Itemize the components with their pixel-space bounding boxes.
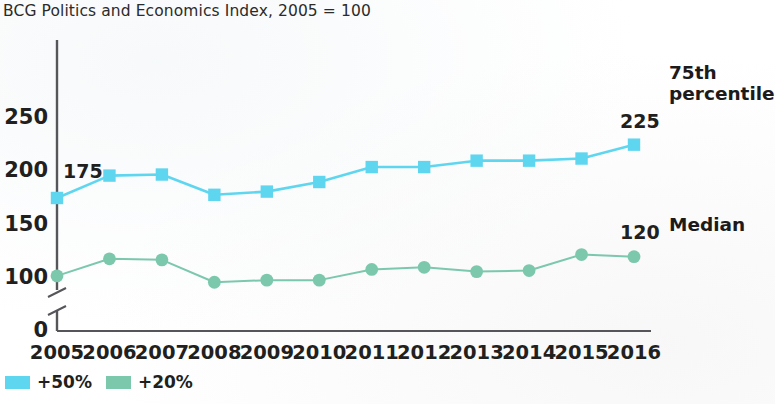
data-point-marker: [51, 269, 64, 282]
data-point-marker: [470, 265, 483, 278]
data-point-marker: [365, 263, 378, 276]
x-axis-tick-2007: 2007: [133, 343, 191, 363]
series2-annotation: Median: [669, 215, 745, 236]
x-axis-tick-2008: 2008: [185, 343, 243, 363]
data-point-marker: [575, 248, 588, 261]
data-point-marker: [208, 276, 221, 289]
y-axis-tick-100: 100: [0, 267, 48, 288]
data-point-marker: [628, 138, 640, 150]
x-axis-tick-2016: 2016: [605, 343, 663, 363]
x-axis-tick-2009: 2009: [238, 343, 296, 363]
data-point-marker: [208, 189, 220, 201]
y-axis-tick-200: 200: [0, 160, 48, 181]
x-axis-tick-2013: 2013: [448, 343, 506, 363]
y-axis-tick-250: 250: [0, 107, 48, 128]
data-point-marker: [260, 274, 273, 287]
x-axis-tick-2014: 2014: [500, 343, 558, 363]
legend-swatch-1: [5, 376, 30, 389]
data-point-marker: [313, 176, 325, 188]
x-axis-tick-2012: 2012: [395, 343, 453, 363]
data-point-marker: [575, 152, 587, 164]
x-axis-tick-2015: 2015: [553, 343, 611, 363]
data-label-series1-start: 175: [63, 162, 103, 181]
data-point-marker: [313, 274, 326, 287]
legend-entry-2[interactable]: +20%: [106, 374, 193, 391]
series1-annotation-line2: percentile: [669, 83, 775, 104]
data-point-marker: [418, 261, 431, 274]
legend-label-1: +50%: [37, 374, 92, 391]
chart-legend: +50%+20%: [5, 374, 193, 391]
data-point-marker: [261, 185, 273, 197]
x-axis-tick-2010: 2010: [290, 343, 348, 363]
x-axis-tick-2005: 2005: [28, 343, 86, 363]
series-line-2: [57, 255, 634, 283]
legend-entry-1[interactable]: +50%: [5, 374, 92, 391]
data-point-marker: [523, 154, 535, 166]
data-point-marker: [51, 192, 63, 204]
data-point-marker: [366, 161, 378, 173]
data-point-marker: [418, 161, 430, 173]
x-axis-tick-2011: 2011: [343, 343, 401, 363]
y-axis-tick-0: 0: [0, 320, 48, 341]
x-axis-tick-2006: 2006: [80, 343, 138, 363]
data-label-series1-end: 225: [620, 112, 660, 131]
data-point-marker: [523, 264, 536, 277]
legend-swatch-2: [106, 376, 131, 389]
series1-annotation: 75thpercentile: [669, 63, 775, 104]
y-axis-tick-150: 150: [0, 214, 48, 235]
data-point-marker: [103, 169, 115, 181]
data-point-marker: [103, 252, 116, 265]
data-point-marker: [156, 168, 168, 180]
data-label-series2-end: 120: [620, 223, 660, 242]
data-point-marker: [470, 154, 482, 166]
data-point-marker: [156, 253, 169, 266]
data-point-marker: [628, 250, 641, 263]
legend-label-2: +20%: [138, 374, 193, 391]
series-line-1: [57, 145, 634, 198]
